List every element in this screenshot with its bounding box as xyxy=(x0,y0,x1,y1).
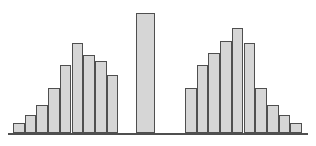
bar-l3 xyxy=(36,105,48,133)
bar-r2 xyxy=(197,65,209,133)
bar-r3 xyxy=(208,53,220,133)
bar-l6 xyxy=(72,43,84,133)
bar-l7 xyxy=(83,55,95,133)
histogram-chart xyxy=(0,0,316,146)
bar-r1 xyxy=(185,88,197,133)
bar-r4 xyxy=(220,41,232,133)
bar-l4 xyxy=(48,88,60,133)
bar-center xyxy=(136,13,155,133)
bar-l8 xyxy=(95,61,107,133)
bar-r7 xyxy=(255,88,267,133)
bar-r9 xyxy=(279,115,291,133)
plot-area xyxy=(0,0,316,146)
bar-l9 xyxy=(107,75,119,133)
bar-r8 xyxy=(267,105,279,133)
baseline-axis xyxy=(8,133,308,135)
bar-r5 xyxy=(232,28,244,133)
bar-l1 xyxy=(13,123,25,133)
bar-l5 xyxy=(60,65,72,133)
bar-r10 xyxy=(290,123,302,133)
bar-r6 xyxy=(244,43,256,133)
bar-l2 xyxy=(25,115,37,133)
